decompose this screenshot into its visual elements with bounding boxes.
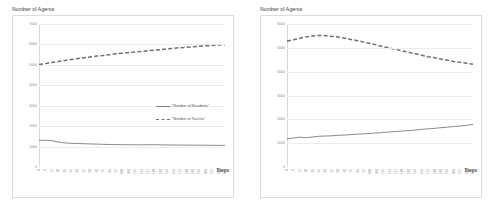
- series-line: [39, 45, 225, 65]
- x-axis-tick-label: 100: [120, 169, 124, 174]
- x-axis-tick-label: 100: [368, 169, 372, 174]
- y-axis-tick-label: 1000: [29, 145, 37, 149]
- x-axis-tick-label: 28: [311, 169, 315, 173]
- x-axis-tick-label: 196: [197, 169, 201, 174]
- y-gridline: [287, 96, 473, 97]
- x-axis-tick-label: 4: [291, 169, 295, 171]
- x-axis-tick-label: 124: [388, 169, 392, 174]
- y-gridline: [39, 147, 225, 148]
- x-axis-tick-label: 44: [75, 169, 79, 173]
- x-axis-tick-label: 36: [317, 169, 321, 173]
- x-axis-tick-label: 52: [82, 169, 86, 173]
- x-axis-tick-label: 148: [407, 169, 411, 174]
- y-axis-tick-label: 6000: [277, 22, 285, 26]
- y-gridline: [287, 72, 473, 73]
- left-legend: "Number of Residents" "Number of Tourist…: [156, 103, 209, 129]
- x-axis-tick-label: 36: [69, 169, 73, 173]
- y-axis-tick-label: 5000: [29, 63, 37, 67]
- x-axis-tick-label: 116: [133, 169, 137, 174]
- x-axis-tick-label: 0: [37, 169, 41, 171]
- y-gridline: [287, 24, 473, 25]
- y-gridline: [287, 143, 473, 144]
- x-axis-tick-label: 196: [445, 169, 449, 174]
- y-axis-tick-label: 5000: [277, 46, 285, 50]
- series-line: [39, 140, 225, 145]
- x-axis-tick-label: 204: [204, 169, 208, 174]
- x-axis-tick-label: 92: [362, 169, 366, 173]
- x-axis-tick-label: 68: [95, 169, 99, 173]
- x-axis-tick-label: 148: [159, 169, 163, 174]
- y-axis-tick-label: 2000: [29, 124, 37, 128]
- page-title: Number of Agents: [12, 6, 54, 12]
- x-axis-tick-label: 12: [298, 169, 302, 173]
- x-axis-tick-label: 92: [114, 169, 118, 173]
- series-line: [287, 124, 473, 139]
- x-axis-tick-label: 60: [336, 169, 340, 173]
- x-axis-tick-label: 156: [165, 169, 169, 174]
- x-axis-tick-label: 220: [217, 169, 221, 174]
- right-plot-area: Steps 0100020003000400050006000041220283…: [287, 24, 473, 167]
- x-axis-tick-label: 76: [349, 169, 353, 173]
- x-axis-tick-label: 180: [433, 169, 437, 174]
- y-axis-tick-label: 3000: [277, 94, 285, 98]
- x-axis-tick-label: 4: [43, 169, 47, 171]
- x-axis-tick-label: 60: [88, 169, 92, 173]
- x-axis-tick-label: 228: [223, 169, 227, 174]
- x-axis-tick-label: 164: [172, 169, 176, 174]
- left-panel: Number of Agents Steps 01000200030004000…: [8, 6, 236, 202]
- x-axis-tick-label: 132: [146, 169, 150, 174]
- y-gridline: [287, 119, 473, 120]
- legend-item-residents: "Number of Residents": [156, 103, 209, 109]
- y-axis-tick-label: 4000: [277, 70, 285, 74]
- x-axis-tick-label: 116: [381, 169, 385, 174]
- x-axis-tick-label: 212: [458, 169, 462, 174]
- x-axis-tick-label: 156: [413, 169, 417, 174]
- left-plot-area: Steps 0100020003000400050006000700004122…: [39, 24, 225, 167]
- y-gridline: [39, 85, 225, 86]
- x-axis-tick-label: 140: [400, 169, 404, 174]
- legend-line-solid-icon: [156, 106, 170, 107]
- x-axis-tick-label: 172: [178, 169, 182, 174]
- x-axis-tick-label: 220: [465, 169, 469, 174]
- x-axis-tick-label: 132: [394, 169, 398, 174]
- right-panel: Number of Agents Steps 01000200030004000…: [256, 6, 484, 202]
- x-axis-tick-label: 68: [343, 169, 347, 173]
- y-gridline: [287, 48, 473, 49]
- y-gridline: [39, 44, 225, 45]
- left-series-layer: [39, 24, 225, 167]
- y-gridline: [39, 65, 225, 66]
- y-axis-tick-label: 4000: [29, 83, 37, 87]
- y-axis-tick-label: 3000: [29, 104, 37, 108]
- x-axis-tick-label: 164: [420, 169, 424, 174]
- x-axis-tick-label: 108: [127, 169, 131, 174]
- legend-label-residents: "Number of Residents": [172, 104, 209, 108]
- y-axis-tick-label: 6000: [29, 42, 37, 46]
- y-axis-tick-label: 7000: [29, 22, 37, 26]
- x-axis-tick-label: 172: [426, 169, 430, 174]
- legend-label-tourists: "Number of Tourists": [172, 117, 206, 121]
- x-axis-tick-label: 52: [330, 169, 334, 173]
- x-axis-tick-label: 140: [152, 169, 156, 174]
- y-axis-tick-label: 2000: [277, 117, 285, 121]
- x-axis-tick-label: 28: [63, 169, 67, 173]
- x-axis-tick-label: 188: [439, 169, 443, 174]
- x-axis-tick-label: 84: [108, 169, 112, 173]
- x-axis-tick-label: 180: [185, 169, 189, 174]
- y-gridline: [39, 24, 225, 25]
- series-line: [287, 35, 473, 64]
- legend-item-tourists: "Number of Tourists": [156, 116, 209, 122]
- x-axis-tick-label: 108: [375, 169, 379, 174]
- x-axis-tick-label: 20: [304, 169, 308, 173]
- x-axis-tick-label: 188: [191, 169, 195, 174]
- y-axis-tick-label: 1000: [277, 141, 285, 145]
- x-axis-tick-label: 76: [101, 169, 105, 173]
- x-axis-tick-label: 12: [50, 169, 54, 173]
- legend-line-dashed-icon: [156, 119, 170, 120]
- x-axis-tick-label: 44: [323, 169, 327, 173]
- x-axis-tick-label: 124: [140, 169, 144, 174]
- figure-canvas: Number of Agents Steps 01000200030004000…: [0, 0, 489, 213]
- right-chart-frame: Steps 0100020003000400050006000041220283…: [260, 15, 482, 198]
- x-axis-tick-label: 20: [56, 169, 60, 173]
- x-axis-tick-label: 212: [210, 169, 214, 174]
- x-axis-tick-label: 204: [452, 169, 456, 174]
